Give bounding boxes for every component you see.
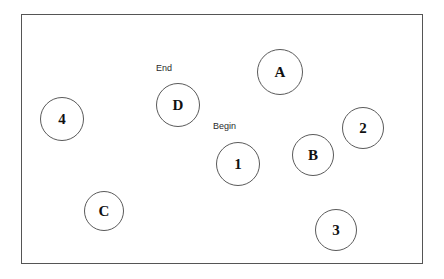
node-label: 2	[359, 121, 367, 136]
node-label: A	[275, 65, 286, 80]
node-circle-c[interactable]: C	[84, 191, 124, 231]
node-label: C	[99, 204, 110, 219]
node-label: 4	[58, 112, 66, 127]
node-label: D	[173, 98, 184, 113]
node-circle-2[interactable]: 2	[342, 107, 384, 149]
annotation-begin: Begin	[213, 122, 236, 131]
node-label: B	[308, 148, 318, 163]
node-circle-a[interactable]: A	[257, 49, 303, 95]
node-circle-3[interactable]: 3	[315, 209, 357, 251]
node-circle-1[interactable]: 1	[216, 142, 260, 186]
node-circle-b[interactable]: B	[292, 134, 334, 176]
diagram-canvas: AD42B1C3EndBegin	[0, 0, 444, 279]
node-label: 1	[234, 157, 242, 172]
node-circle-4[interactable]: 4	[40, 97, 84, 141]
node-label: 3	[332, 223, 340, 238]
annotation-end: End	[156, 64, 172, 73]
node-circle-d[interactable]: D	[156, 83, 200, 127]
